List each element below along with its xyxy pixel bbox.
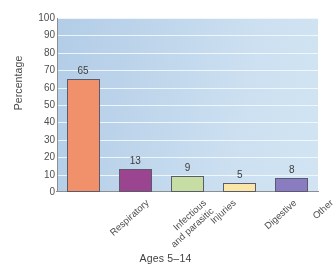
bar: [223, 183, 256, 192]
y-tick-label: 50: [44, 99, 55, 111]
x-category-label: Digestive: [262, 197, 298, 231]
bar-value-label: 5: [220, 169, 260, 180]
y-tick-label: 0: [49, 186, 55, 198]
y-axis-title: Percentage: [12, 33, 26, 133]
x-category-label-line: Other: [310, 197, 335, 221]
y-tick-label: 10: [44, 169, 55, 181]
y-tick-label: 70: [44, 64, 55, 76]
bar-value-label: 8: [272, 164, 312, 175]
bar-value-label: 65: [63, 65, 103, 76]
bar: [171, 176, 204, 192]
y-tick-label: 30: [44, 134, 55, 146]
y-tick-label: 40: [44, 116, 55, 128]
y-tick-label: 20: [44, 151, 55, 163]
y-tick-label: 80: [44, 47, 55, 59]
gridline: [58, 18, 318, 19]
x-category-label: Respiratory: [108, 197, 151, 238]
bar: [67, 79, 100, 192]
bar-value-label: 9: [168, 162, 208, 173]
x-axis-title: Ages 5–14: [0, 252, 331, 264]
bar: [119, 169, 152, 192]
bar-value-label: 13: [115, 155, 155, 166]
x-category-label: Other: [310, 197, 335, 221]
x-category-label-line: Respiratory: [108, 197, 151, 238]
y-tick-label: 90: [44, 29, 55, 41]
gridline: [58, 35, 318, 36]
x-category-label-line: Digestive: [262, 197, 298, 231]
x-category-label: Infectiousand parasitic: [161, 197, 216, 249]
y-tick-label: 100: [38, 12, 55, 24]
bar: [275, 178, 308, 192]
gridline: [58, 53, 318, 54]
y-tick-label: 60: [44, 82, 55, 94]
y-axis-tick-labels: 1009080706050403020100: [33, 12, 55, 196]
